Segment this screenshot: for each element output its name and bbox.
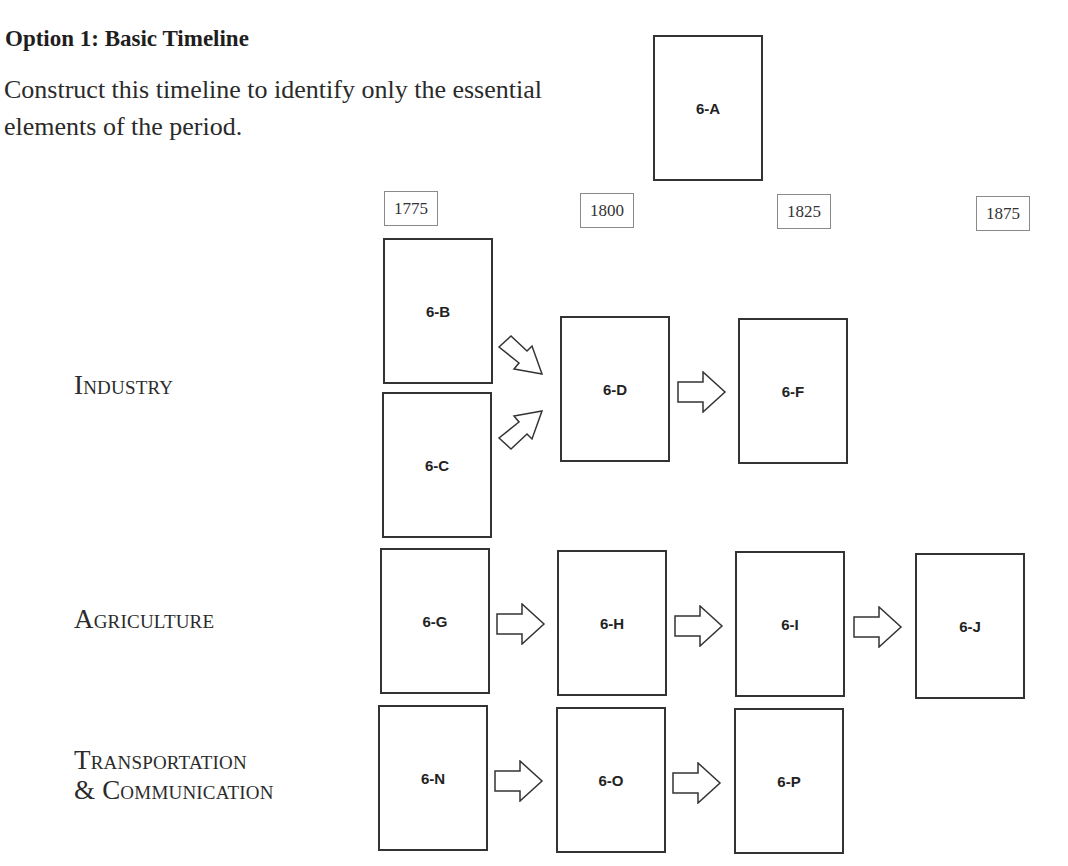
box-label: 6-C [425,457,449,474]
row-label-transportation-line1: Transportation [74,745,274,775]
box-label: 6-I [781,616,799,633]
timeline-box-6j: 6-J [915,553,1025,699]
right-arrow-icon [677,371,727,413]
row-label-transportation: Transportation & Communication [74,745,274,805]
timeline-box-6c: 6-C [382,392,492,538]
timeline-box-6p: 6-P [734,708,844,854]
timeline-box-6a: 6-A [653,35,763,181]
box-label: 6-F [782,383,805,400]
box-label: 6-P [777,773,800,790]
box-label: 6-G [422,613,447,630]
right-arrow-icon [496,603,546,645]
timeline-box-6n: 6-N [378,705,488,851]
right-arrow-icon [674,605,724,647]
timeline-box-6o: 6-O [556,707,666,853]
year-1825: 1825 [777,194,831,229]
up-right-arrow-icon [497,408,545,452]
timeline-box-6d: 6-D [560,316,670,462]
timeline-box-6f: 6-F [738,318,848,464]
box-label: 6-O [598,772,623,789]
box-label: 6-H [600,615,624,632]
instructions-text: Construct this timeline to identify only… [4,71,544,145]
row-label-agriculture: Agriculture [74,604,214,634]
box-label: 6-N [421,770,445,787]
timeline-box-6h: 6-H [557,550,667,696]
year-1775: 1775 [384,191,438,226]
year-1875: 1875 [976,196,1030,231]
box-label: 6-D [603,381,627,398]
right-arrow-icon [672,762,722,804]
row-label-transportation-line2: & Communication [74,775,274,805]
year-1800: 1800 [580,193,634,228]
row-label-industry: Industry [74,370,173,400]
box-label: 6-B [426,303,450,320]
right-arrow-icon [853,606,903,648]
box-label: 6-J [959,618,981,635]
page-title: Option 1: Basic Timeline [5,26,249,52]
down-right-arrow-icon [497,333,545,377]
timeline-box-6b: 6-B [383,238,493,384]
box-label: 6-A [696,100,720,117]
right-arrow-icon [494,760,544,802]
timeline-box-6i: 6-I [735,551,845,697]
timeline-box-6g: 6-G [380,548,490,694]
